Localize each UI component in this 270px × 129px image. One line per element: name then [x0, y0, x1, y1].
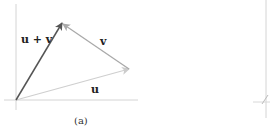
label-v: v — [99, 35, 107, 48]
label-u-plus-v: u + v — [21, 33, 53, 46]
label-u: u — [91, 83, 99, 96]
panel-a: u + v v u (a) — [4, 4, 138, 126]
panel-b-vector-stub — [262, 95, 268, 104]
vector-v — [63, 24, 129, 69]
panel-b-partial — [253, 0, 270, 118]
vector-u — [16, 69, 129, 100]
caption-a: (a) — [74, 115, 88, 126]
vector-addition-diagram: u + v v u (a) — [0, 0, 270, 129]
